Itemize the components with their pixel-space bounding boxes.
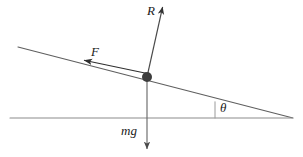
friction-force-label: F [91, 45, 99, 58]
weight-label: mg [121, 124, 137, 137]
force-diagram: R F mg θ [0, 0, 303, 157]
normal-force-label: R [147, 4, 155, 17]
incline-angle-label: θ [220, 101, 226, 114]
particle-dot [142, 72, 152, 82]
incline-surface-line [18, 47, 293, 118]
diagram-canvas [0, 0, 303, 157]
